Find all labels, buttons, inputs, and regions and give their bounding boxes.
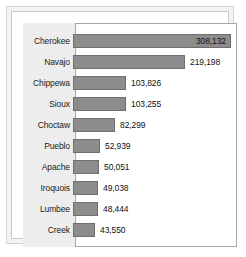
- bar-row: Apache50,051: [23, 156, 237, 177]
- bar-track: 219,198: [73, 51, 237, 72]
- bar-row: Creek43,550: [23, 219, 237, 240]
- bar-track: 103,255: [73, 93, 237, 114]
- bar: [73, 76, 126, 90]
- bar-row: Navajo219,198: [23, 51, 237, 72]
- bar: [73, 223, 95, 237]
- bar-value-label: 49,038: [98, 183, 128, 193]
- bar-category-label: Apache: [23, 162, 73, 172]
- bar-value-label: 82,299: [115, 120, 145, 130]
- bar: [73, 118, 115, 132]
- bar-category-label: Choctaw: [23, 120, 73, 130]
- bar: [73, 181, 98, 195]
- bar-row: Iroquois49,038: [23, 177, 237, 198]
- bar-category-label: Creek: [23, 225, 73, 235]
- bar-value-label: 43,550: [95, 225, 125, 235]
- bar-value-label: 52,939: [100, 141, 130, 151]
- plot-area: Cherokee308,132Navajo219,198Chippewa103,…: [23, 23, 237, 247]
- bar-row: Cherokee308,132: [23, 30, 237, 51]
- bar: [73, 139, 100, 153]
- bar-category-label: Navajo: [23, 57, 73, 67]
- bar-value-label: 219,198: [185, 57, 220, 67]
- bar-value-label: 50,051: [99, 162, 129, 172]
- bar-track: 48,444: [73, 198, 237, 219]
- bar-row: Pueblo52,939: [23, 135, 237, 156]
- bar: [73, 55, 185, 69]
- bar-track: 50,051: [73, 156, 237, 177]
- bar-row: Choctaw82,299: [23, 114, 237, 135]
- bar-category-label: Lumbee: [23, 204, 73, 214]
- chart-outer-frame: Cherokee308,132Navajo219,198Chippewa103,…: [6, 6, 234, 244]
- bar-track: 82,299: [73, 114, 237, 135]
- bar-track: 52,939: [73, 135, 237, 156]
- bar-category-label: Cherokee: [23, 36, 73, 46]
- bar: [73, 160, 99, 174]
- bar-value-label: 48,444: [98, 204, 128, 214]
- bar-track: 43,550: [73, 219, 237, 240]
- bar-category-label: Pueblo: [23, 141, 73, 151]
- bar: [73, 97, 126, 111]
- bar-chart-figure: Cherokee308,132Navajo219,198Chippewa103,…: [0, 0, 246, 257]
- bar: 308,132: [73, 34, 231, 48]
- bar-value-label: 103,826: [126, 78, 161, 88]
- bar-category-label: Iroquois: [23, 183, 73, 193]
- bar-value-label: 308,132: [196, 36, 230, 46]
- bar-row: Chippewa103,826: [23, 72, 237, 93]
- bar-track: 49,038: [73, 177, 237, 198]
- bar-row: Lumbee48,444: [23, 198, 237, 219]
- bar-category-label: Sioux: [23, 99, 73, 109]
- bar-track: 308,132: [73, 30, 237, 51]
- bar-value-label: 103,255: [126, 99, 161, 109]
- bar-row: Sioux103,255: [23, 93, 237, 114]
- bar: [73, 202, 98, 216]
- bar-category-label: Chippewa: [23, 78, 73, 88]
- bar-rows: Cherokee308,132Navajo219,198Chippewa103,…: [23, 23, 237, 247]
- chart-inner-frame: Cherokee308,132Navajo219,198Chippewa103,…: [11, 11, 229, 239]
- bar-track: 103,826: [73, 72, 237, 93]
